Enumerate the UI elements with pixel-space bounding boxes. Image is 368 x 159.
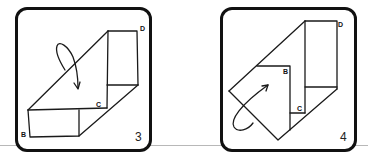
rotation-arrow-icon [233, 85, 268, 130]
d-flap-outline [305, 21, 337, 89]
step-4-drawing: D B C 4 [229, 21, 347, 144]
step-number: 3 [135, 130, 142, 144]
d-flap-outline [108, 31, 138, 85]
diagonal-fold-edge [28, 31, 108, 110]
step-3-drawing: D C B 3 [21, 25, 145, 144]
label-d: D [338, 21, 343, 28]
diagonal-fold-edge [229, 21, 305, 91]
label-b: B [21, 131, 26, 138]
label-c: C [96, 101, 101, 108]
b-flap-outline [257, 66, 290, 130]
folding-diagram: D C B 3 D B C 4 [0, 0, 368, 159]
arrowhead-icon [74, 82, 80, 89]
rotation-arrow-icon [57, 44, 78, 88]
lower-diagonal-edge [79, 85, 138, 136]
label-c: C [297, 105, 302, 112]
center-vertical-edge [107, 31, 108, 108]
label-b: B [283, 68, 288, 75]
step-number: 4 [340, 130, 347, 144]
folded-flap-outline [229, 89, 337, 140]
c-edge [28, 108, 107, 110]
b-flap-outline [28, 110, 79, 137]
label-d: D [140, 25, 145, 32]
